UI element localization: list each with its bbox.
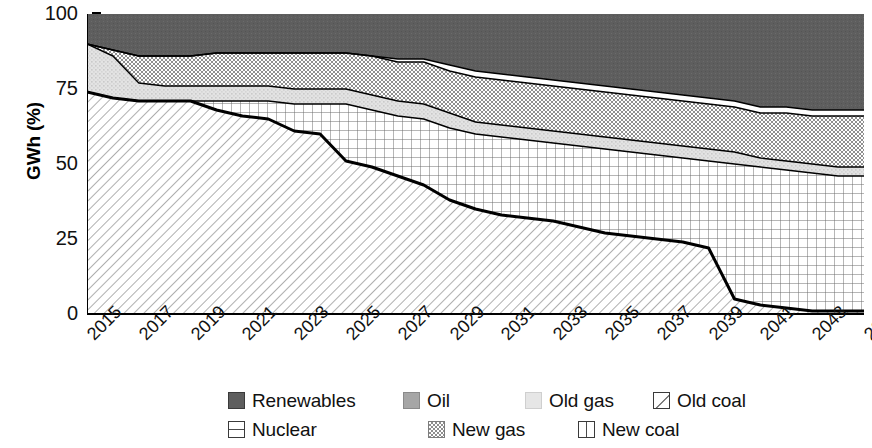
y-tick-label: 75 bbox=[32, 78, 78, 98]
old-gas-swatch-icon bbox=[525, 392, 542, 409]
chart-legend: Renewables Oil Old gas Old coal bbox=[228, 386, 788, 444]
y-tick-label: 25 bbox=[32, 228, 78, 248]
legend-item-new-coal[interactable]: New coal bbox=[578, 419, 679, 441]
legend-item-new-gas[interactable]: New gas bbox=[428, 419, 578, 441]
legend-label: Oil bbox=[427, 390, 450, 412]
legend-label: Old coal bbox=[677, 390, 746, 412]
renewables-swatch-icon bbox=[228, 392, 245, 409]
legend-item-old-gas[interactable]: Old gas bbox=[525, 390, 653, 412]
y-tick-label: 100 bbox=[32, 3, 78, 23]
legend-label: Renewables bbox=[252, 390, 356, 412]
legend-label: New coal bbox=[602, 419, 679, 441]
legend-row-2: Nuclear New gas New coal bbox=[228, 415, 788, 444]
legend-label: New gas bbox=[452, 419, 525, 441]
legend-row-1: Renewables Oil Old gas Old coal bbox=[228, 386, 788, 415]
y-tick-label: 50 bbox=[32, 153, 78, 173]
oil-swatch-icon bbox=[403, 392, 420, 409]
old-coal-swatch-icon bbox=[653, 392, 670, 409]
legend-item-nuclear[interactable]: Nuclear bbox=[228, 419, 428, 441]
nuclear-swatch-icon bbox=[228, 421, 245, 438]
new-coal-swatch-icon bbox=[578, 421, 595, 438]
legend-label: Nuclear bbox=[252, 419, 317, 441]
plot-area bbox=[87, 13, 864, 313]
new-gas-swatch-icon bbox=[428, 421, 445, 438]
legend-item-old-coal[interactable]: Old coal bbox=[653, 390, 746, 412]
chart-figure: GWh (%) 100 75 50 25 0 bbox=[0, 0, 872, 448]
stacked-area-chart bbox=[87, 13, 864, 315]
y-axis-ticks: 100 75 50 25 0 bbox=[20, 0, 78, 448]
y-tick-label: 0 bbox=[32, 303, 78, 323]
legend-item-renewables[interactable]: Renewables bbox=[228, 390, 403, 412]
legend-label: Old gas bbox=[549, 390, 614, 412]
legend-item-oil[interactable]: Oil bbox=[403, 390, 525, 412]
